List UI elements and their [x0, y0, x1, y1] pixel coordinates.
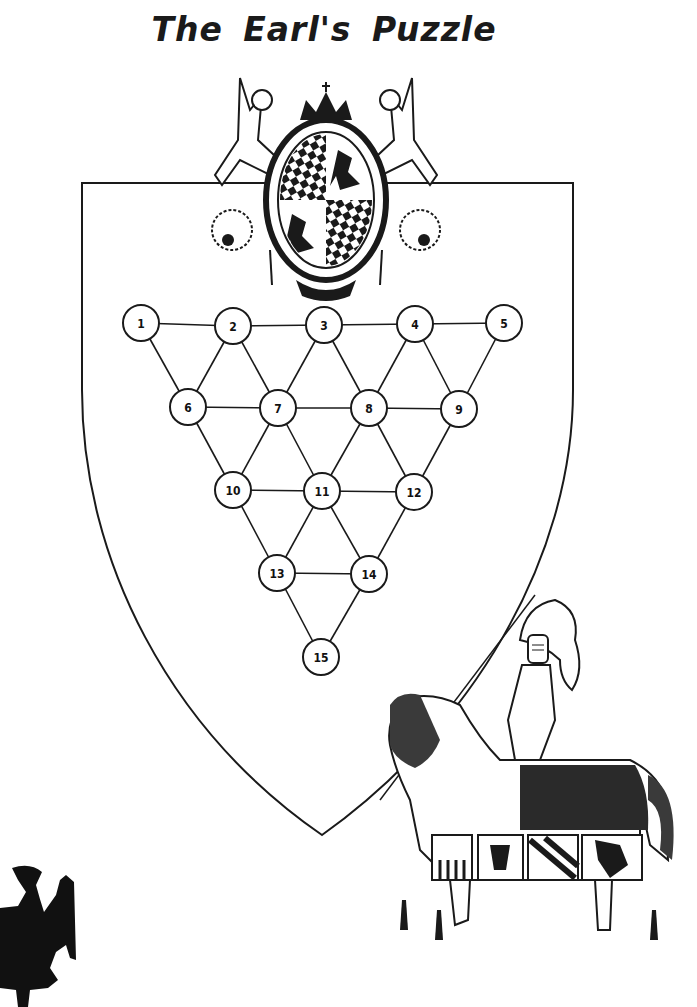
- puzzle-node-11[interactable]: 11: [304, 473, 340, 509]
- puzzle-node-15[interactable]: 15: [303, 639, 339, 675]
- puzzle-node-8[interactable]: 8: [351, 390, 387, 426]
- puzzle-node-14[interactable]: 14: [351, 556, 387, 592]
- puzzle-node-5[interactable]: 5: [486, 305, 522, 341]
- heraldic-eagle-icon: [0, 866, 76, 1007]
- puzzle-node-label: 4: [411, 318, 419, 332]
- puzzle-node-label: 9: [455, 403, 463, 417]
- puzzle-node-13[interactable]: 13: [259, 555, 295, 591]
- puzzle-node-4[interactable]: 4: [397, 306, 433, 342]
- puzzle-node-label: 12: [406, 486, 421, 500]
- puzzle-node-label: 7: [274, 402, 282, 416]
- puzzle-node-label: 2: [229, 320, 237, 334]
- puzzle-node-2[interactable]: 2: [215, 308, 251, 344]
- puzzle-node-label: 5: [500, 317, 508, 331]
- puzzle-node-label: 10: [225, 484, 240, 498]
- puzzle-node-label: 1: [137, 317, 145, 331]
- coat-of-arms-icon: [212, 78, 440, 301]
- puzzle-node-10[interactable]: 10: [215, 472, 251, 508]
- puzzle-node-9[interactable]: 9: [441, 391, 477, 427]
- puzzle-node-3[interactable]: 3: [306, 307, 342, 343]
- knight-on-horse-icon: [380, 595, 674, 940]
- puzzle-node-6[interactable]: 6: [170, 389, 206, 425]
- puzzle-node-label: 13: [269, 567, 284, 581]
- puzzle-nodes: 123456789101112131415: [123, 305, 522, 675]
- puzzle-node-7[interactable]: 7: [260, 390, 296, 426]
- puzzle-node-1[interactable]: 1: [123, 305, 159, 341]
- puzzle-node-label: 3: [320, 319, 328, 333]
- puzzle-node-label: 11: [314, 485, 329, 499]
- puzzle-node-label: 14: [361, 568, 377, 582]
- puzzle-node-label: 6: [184, 401, 192, 415]
- puzzle-node-label: 8: [365, 402, 373, 416]
- puzzle-node-12[interactable]: 12: [396, 474, 432, 510]
- puzzle-node-label: 15: [313, 651, 328, 665]
